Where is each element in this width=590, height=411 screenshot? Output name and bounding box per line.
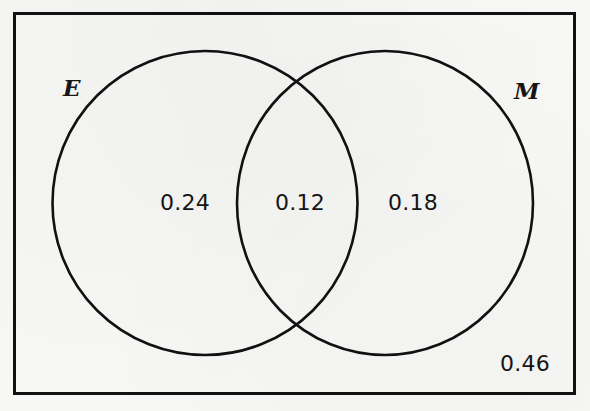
region-value-m-only: 0.18 (388, 190, 438, 215)
set-label-m: M (514, 77, 540, 104)
set-label-e: E (63, 74, 81, 101)
region-value-e-only: 0.24 (160, 190, 210, 215)
region-value-intersection: 0.12 (275, 190, 325, 215)
venn-diagram-figure: E M 0.24 0.12 0.18 0.46 (0, 0, 590, 411)
region-value-neither: 0.46 (500, 351, 550, 376)
